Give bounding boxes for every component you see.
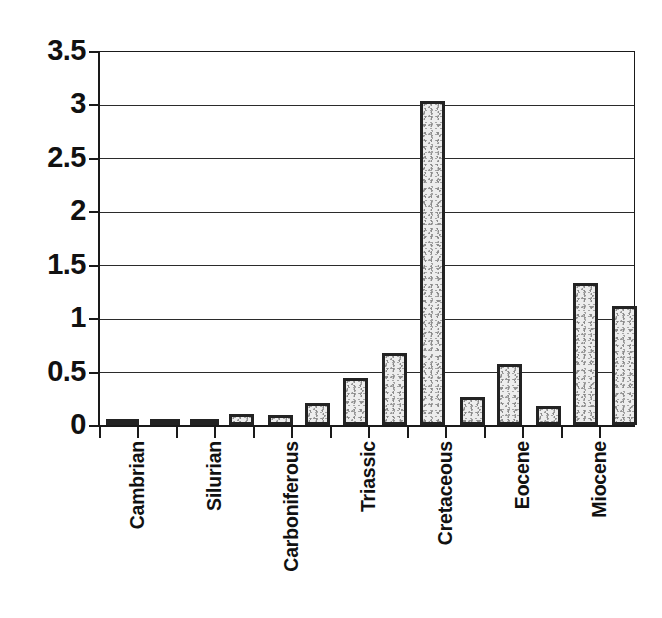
- bar-cambrian: [106, 419, 139, 425]
- bar-silurian: [190, 419, 219, 425]
- x-tick-label-triassic: Triassic: [359, 441, 379, 512]
- x-tick-label-silurian: Silurian: [205, 441, 225, 511]
- gridline: [100, 212, 634, 213]
- x-tick-mark: [253, 427, 255, 438]
- y-tick-label: 0.5: [47, 357, 86, 386]
- y-tick-label: 3.5: [47, 36, 86, 65]
- y-tick-label: 1: [70, 303, 86, 332]
- y-tick-mark: [89, 158, 98, 160]
- y-tick-mark: [89, 211, 98, 213]
- x-tick-label-cretaceous: Cretaceous: [436, 441, 456, 545]
- bar-carboniferous: [268, 415, 293, 425]
- bar-chart: 3.5 3 2.5 2 1.5 1 0.5 0: [0, 0, 662, 618]
- gridline: [100, 319, 634, 320]
- x-tick-mark: [99, 427, 101, 438]
- x-tick-mark: [445, 427, 447, 438]
- y-axis: 3.5 3 2.5 2 1.5 1 0.5 0: [0, 0, 86, 618]
- y-tick-mark: [89, 425, 98, 427]
- y-tick-label: 0: [70, 410, 86, 439]
- bar-triassic: [343, 378, 368, 425]
- bar-paleocene: [460, 397, 485, 425]
- bar-miocene: [573, 283, 598, 425]
- bar-ordovician: [150, 419, 180, 425]
- y-tick-mark: [89, 265, 98, 267]
- bar-eocene: [497, 364, 522, 425]
- bar-permian: [305, 403, 330, 425]
- y-tick-label: 2.5: [47, 143, 86, 172]
- x-tick-label-carboniferous: Carboniferous: [282, 441, 302, 572]
- x-tick-mark: [561, 427, 563, 438]
- bar-pliocene: [612, 306, 637, 425]
- bar-cretaceous: [420, 101, 445, 425]
- y-tick-mark: [89, 318, 98, 320]
- x-tick-mark: [291, 427, 293, 438]
- x-tick-label-cambrian: Cambrian: [128, 441, 148, 529]
- x-tick-mark: [484, 427, 486, 438]
- x-tick-mark: [330, 427, 332, 438]
- x-tick-mark: [407, 427, 409, 438]
- y-tick-mark: [89, 51, 98, 53]
- x-tick-mark: [599, 427, 601, 438]
- y-tick-mark: [89, 372, 98, 374]
- x-tick-mark: [137, 427, 139, 438]
- y-tick-label: 2: [70, 196, 86, 225]
- y-tick-label: 3: [70, 89, 86, 118]
- x-tick-label-miocene: Miocene: [590, 441, 610, 518]
- x-tick-label-eocene: Eocene: [513, 441, 533, 509]
- gridline: [100, 265, 634, 266]
- x-tick-mark: [368, 427, 370, 438]
- bar-devonian: [229, 414, 254, 425]
- x-tick-mark: [176, 427, 178, 438]
- x-tick-mark: [214, 427, 216, 438]
- plot-area: [98, 51, 635, 427]
- gridline: [100, 105, 634, 106]
- bar-oligocene: [536, 406, 561, 425]
- x-tick-mark: [522, 427, 524, 438]
- gridline: [100, 372, 634, 373]
- y-tick-label: 1.5: [47, 250, 86, 279]
- bar-jurassic: [382, 353, 407, 425]
- y-tick-mark: [89, 104, 98, 106]
- gridline: [100, 158, 634, 159]
